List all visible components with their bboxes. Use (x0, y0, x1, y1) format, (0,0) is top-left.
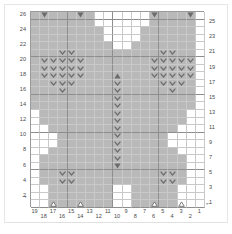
chart-cell[interactable] (150, 133, 159, 141)
chart-cell[interactable] (141, 118, 150, 126)
chart-cell[interactable] (31, 110, 40, 118)
chart-cell[interactable] (132, 178, 141, 186)
chart-cell[interactable] (123, 155, 132, 163)
knitting-chart-grid[interactable] (30, 11, 204, 207)
chart-cell[interactable] (187, 140, 196, 148)
chart-cell[interactable] (31, 12, 40, 20)
chart-cell[interactable] (150, 170, 159, 178)
chart-cell[interactable] (113, 42, 122, 50)
chart-cell[interactable] (196, 80, 205, 88)
chart-cell[interactable] (159, 72, 168, 80)
chart-cell[interactable] (68, 163, 77, 171)
chart-cell[interactable] (49, 133, 58, 141)
chart-cell[interactable] (187, 118, 196, 126)
chart-cell[interactable] (86, 133, 95, 141)
chart-cell[interactable] (77, 118, 86, 126)
chart-cell[interactable] (58, 178, 67, 186)
chart-cell[interactable] (40, 185, 49, 193)
chart-cell[interactable] (77, 163, 86, 171)
chart-cell[interactable] (168, 65, 177, 73)
chart-cell[interactable] (40, 193, 49, 201)
chart-cell[interactable] (187, 163, 196, 171)
chart-cell[interactable] (31, 20, 40, 28)
chart-cell[interactable] (49, 163, 58, 171)
chart-cell[interactable] (49, 57, 58, 65)
chart-cell[interactable] (150, 95, 159, 103)
chart-cell[interactable] (95, 118, 104, 126)
chart-cell[interactable] (132, 20, 141, 28)
chart-cell[interactable] (58, 20, 67, 28)
chart-cell[interactable] (49, 35, 58, 43)
chart-cell[interactable] (196, 27, 205, 35)
chart-cell[interactable] (77, 193, 86, 201)
chart-cell[interactable] (187, 42, 196, 50)
chart-cell[interactable] (31, 65, 40, 73)
chart-cell[interactable] (40, 80, 49, 88)
chart-cell[interactable] (168, 170, 177, 178)
chart-cell[interactable] (187, 27, 196, 35)
chart-cell[interactable] (150, 163, 159, 171)
chart-cell[interactable] (68, 118, 77, 126)
chart-cell[interactable] (123, 95, 132, 103)
chart-cell[interactable] (77, 12, 86, 20)
chart-cell[interactable] (150, 200, 159, 208)
chart-cell[interactable] (86, 118, 95, 126)
chart-cell[interactable] (178, 155, 187, 163)
chart-cell[interactable] (132, 140, 141, 148)
chart-cell[interactable] (178, 133, 187, 141)
chart-cell[interactable] (104, 110, 113, 118)
chart-cell[interactable] (40, 155, 49, 163)
chart-cell[interactable] (168, 163, 177, 171)
chart-cell[interactable] (141, 102, 150, 110)
chart-cell[interactable] (141, 65, 150, 73)
chart-cell[interactable] (95, 178, 104, 186)
chart-cell[interactable] (196, 170, 205, 178)
chart-cell[interactable] (40, 50, 49, 58)
chart-cell[interactable] (123, 27, 132, 35)
chart-cell[interactable] (113, 200, 122, 208)
chart-cell[interactable] (196, 133, 205, 141)
chart-cell[interactable] (68, 185, 77, 193)
chart-cell[interactable] (86, 102, 95, 110)
chart-cell[interactable] (178, 50, 187, 58)
chart-cell[interactable] (132, 200, 141, 208)
chart-cell[interactable] (150, 72, 159, 80)
chart-cell[interactable] (132, 148, 141, 156)
chart-cell[interactable] (86, 35, 95, 43)
chart-cell[interactable] (159, 148, 168, 156)
chart-cell[interactable] (58, 155, 67, 163)
chart-cell[interactable] (196, 57, 205, 65)
chart-cell[interactable] (40, 133, 49, 141)
chart-cell[interactable] (123, 12, 132, 20)
chart-cell[interactable] (141, 200, 150, 208)
chart-cell[interactable] (31, 57, 40, 65)
chart-cell[interactable] (95, 110, 104, 118)
chart-cell[interactable] (86, 12, 95, 20)
chart-cell[interactable] (68, 155, 77, 163)
chart-cell[interactable] (123, 193, 132, 201)
chart-cell[interactable] (49, 200, 58, 208)
chart-cell[interactable] (31, 118, 40, 126)
chart-cell[interactable] (113, 125, 122, 133)
chart-cell[interactable] (86, 155, 95, 163)
chart-cell[interactable] (132, 118, 141, 126)
chart-cell[interactable] (58, 42, 67, 50)
chart-cell[interactable] (141, 27, 150, 35)
chart-cell[interactable] (159, 42, 168, 50)
chart-cell[interactable] (196, 12, 205, 20)
chart-cell[interactable] (196, 155, 205, 163)
chart-cell[interactable] (77, 20, 86, 28)
chart-cell[interactable] (123, 140, 132, 148)
chart-cell[interactable] (77, 102, 86, 110)
chart-cell[interactable] (178, 20, 187, 28)
chart-cell[interactable] (95, 42, 104, 50)
chart-cell[interactable] (159, 193, 168, 201)
chart-cell[interactable] (123, 110, 132, 118)
chart-cell[interactable] (49, 72, 58, 80)
chart-cell[interactable] (58, 95, 67, 103)
chart-cell[interactable] (150, 178, 159, 186)
chart-cell[interactable] (40, 140, 49, 148)
chart-cell[interactable] (40, 35, 49, 43)
chart-cell[interactable] (123, 72, 132, 80)
chart-cell[interactable] (187, 87, 196, 95)
